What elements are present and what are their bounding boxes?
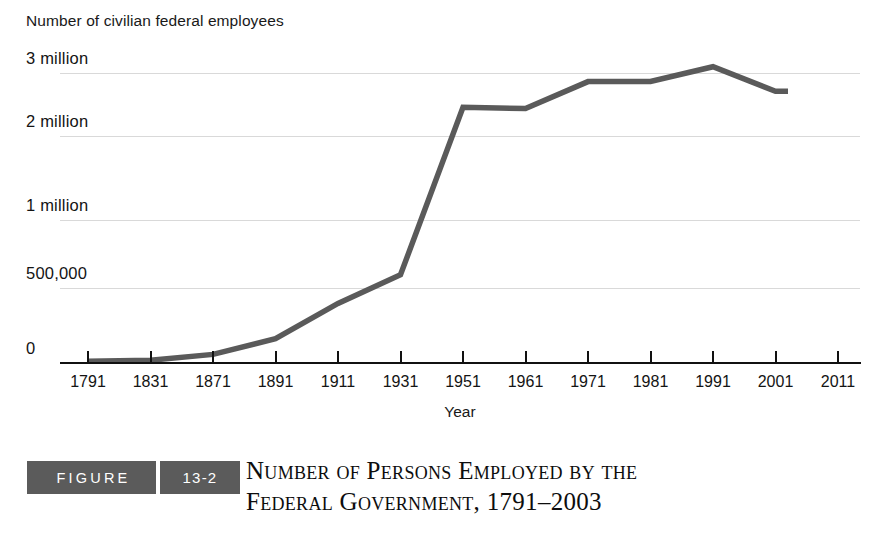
x-tick-label-1791: 1791 bbox=[70, 373, 106, 391]
x-axis-tick-2001 bbox=[775, 351, 777, 362]
x-axis-tick-2011 bbox=[837, 351, 839, 362]
data-series-line bbox=[0, 0, 877, 440]
x-tick-label-1981: 1981 bbox=[633, 373, 669, 391]
x-tick-label-1991: 1991 bbox=[695, 373, 731, 391]
x-tick-label-2001: 2001 bbox=[758, 373, 794, 391]
x-tick-label-1891: 1891 bbox=[258, 373, 294, 391]
figure-caption-title: Number of Persons Employed by the Federa… bbox=[246, 456, 866, 517]
x-tick-label-1971: 1971 bbox=[570, 373, 606, 391]
x-axis-tick-1791 bbox=[87, 351, 89, 362]
x-axis-tick-1951 bbox=[462, 351, 464, 362]
x-axis-tick-1991 bbox=[712, 351, 714, 362]
caption-title-line-2: Federal Government, 1791–2003 bbox=[246, 487, 866, 518]
figure-caption-block: FIGURE 13-2 Number of Persons Employed b… bbox=[0, 443, 877, 553]
figure-badge: FIGURE 13-2 bbox=[27, 461, 240, 494]
figure-badge-number: 13-2 bbox=[160, 461, 240, 494]
figure-container: Number of civilian federal employees 3 m… bbox=[0, 0, 877, 553]
x-axis-tick-1831 bbox=[150, 351, 152, 362]
x-tick-label-1931: 1931 bbox=[383, 373, 419, 391]
x-tick-label-2011: 2011 bbox=[821, 373, 855, 391]
x-axis-tick-1871 bbox=[212, 351, 214, 362]
x-axis-tick-1971 bbox=[587, 351, 589, 362]
x-axis-tick-1891 bbox=[275, 351, 277, 362]
x-axis-title: Year bbox=[444, 403, 475, 421]
x-tick-label-1831: 1831 bbox=[133, 373, 169, 391]
x-tick-label-1961: 1961 bbox=[508, 373, 544, 391]
x-axis-tick-1961 bbox=[525, 351, 527, 362]
x-axis-tick-1911 bbox=[337, 351, 339, 362]
x-axis-line bbox=[60, 362, 861, 364]
figure-badge-word: FIGURE bbox=[27, 461, 156, 494]
x-tick-label-1951: 1951 bbox=[445, 373, 481, 391]
chart-plot-area: Number of civilian federal employees 3 m… bbox=[0, 0, 877, 440]
x-tick-label-1911: 1911 bbox=[321, 373, 355, 391]
x-tick-label-1871: 1871 bbox=[195, 373, 231, 391]
x-axis-tick-1931 bbox=[400, 351, 402, 362]
caption-title-line-1: Number of Persons Employed by the bbox=[246, 456, 866, 487]
x-axis-tick-1981 bbox=[650, 351, 652, 362]
